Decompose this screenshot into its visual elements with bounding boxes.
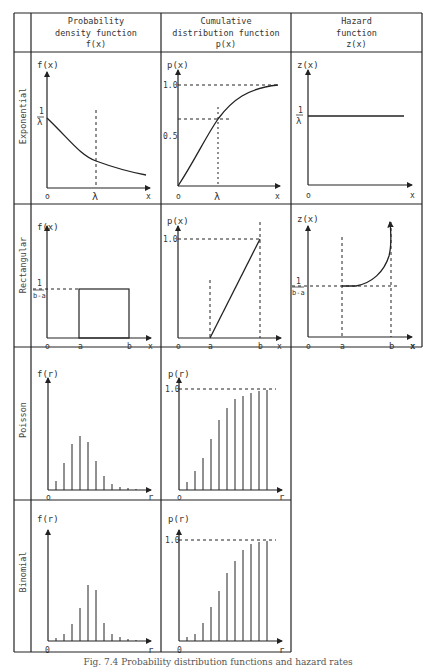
- plots-layer: f(x) 1 λ o λ x p(x) 1.0 0.5 o λ x: [0, 0, 436, 669]
- tick-one: 1.0: [163, 81, 178, 90]
- axis-label-pr: p(r): [168, 514, 190, 524]
- tick-lambda: λ: [92, 191, 98, 202]
- axis-label-x: x: [410, 191, 415, 200]
- origin-label: o: [306, 342, 311, 351]
- tick-one-over-lambda-den: λ: [37, 117, 43, 127]
- tick-lambda: λ: [214, 191, 220, 202]
- origin-label: o: [306, 191, 311, 200]
- axis-label-x: x: [275, 192, 280, 201]
- tick-one-over-ba-den: b-a: [292, 289, 305, 297]
- tick-a: a: [78, 342, 83, 351]
- tick-one-over-ba-num: 1: [37, 279, 42, 288]
- plot-poisson-pmf: f(r) o r: [37, 369, 154, 502]
- tick-one-over-lambda-num: 1: [298, 106, 303, 115]
- tick-b: b: [389, 341, 394, 351]
- tick-a: a: [208, 342, 213, 351]
- plot-exponential-pdf: f(x) 1 λ o λ x: [37, 60, 151, 202]
- axis-label-px: p(x): [167, 216, 189, 226]
- origin-label: o: [46, 493, 51, 502]
- figure-caption: Fig. 7.4 Probability distribution functi…: [0, 657, 436, 667]
- origin-label: o: [176, 342, 181, 351]
- tick-one: 1.0: [165, 536, 180, 545]
- origin-label: o: [45, 192, 50, 201]
- axis-label-r: r: [279, 492, 285, 502]
- tick-a: a: [340, 342, 345, 351]
- axis-label-r: r: [279, 645, 285, 655]
- figure-page: Probability density function f(x) Cumula…: [0, 0, 436, 669]
- origin-label: o: [45, 342, 50, 351]
- tick-b: b: [258, 342, 263, 351]
- axis-label-zx: z(x): [297, 60, 319, 70]
- plot-poisson-cdf: p(r) 1.0 o r: [165, 369, 285, 502]
- axis-label-fx: f(x): [37, 222, 59, 232]
- origin-label: o: [177, 493, 182, 502]
- plot-rectangular-cdf: p(x) 1.0 o a b x: [163, 216, 282, 351]
- axis-label-x: x: [146, 192, 151, 201]
- tick-b: b: [127, 342, 132, 351]
- axis-label-fx: f(x): [37, 60, 59, 70]
- tick-one: 1.0: [163, 235, 178, 244]
- plot-rectangular-hazard: z(x) 1 b-a o a b x: [292, 214, 416, 351]
- tick-one-over-lambda-den: λ: [296, 116, 302, 126]
- tick-half: 0.5: [163, 132, 178, 141]
- origin-label: 0: [45, 646, 50, 655]
- axis-label-x: x: [410, 341, 416, 351]
- plot-exponential-cdf: p(x) 1.0 0.5 o λ x: [163, 60, 280, 202]
- plot-exponential-hazard: z(x) 1 λ o x: [296, 60, 415, 200]
- axis-label-pr: p(r): [168, 369, 190, 379]
- axis-label-fr: f(r): [37, 514, 59, 524]
- axis-label-r: r: [148, 492, 154, 502]
- tick-one-over-ba-den: b-a: [33, 292, 46, 300]
- axis-label-zx: z(x): [297, 214, 319, 224]
- axis-label-fr: f(r): [37, 369, 59, 379]
- origin-label: o: [176, 192, 181, 201]
- plot-binomial-cdf: p(r) 1.0 0 r: [165, 514, 285, 655]
- tick-one-over-ba-num: 1: [296, 277, 301, 286]
- axis-label-r: r: [148, 645, 154, 655]
- plot-binomial-pmf: f(r) 0 r: [37, 514, 154, 655]
- axis-label-x: x: [148, 342, 153, 351]
- axis-label-x: x: [277, 342, 282, 351]
- origin-label: 0: [177, 646, 182, 655]
- tick-one-over-lambda-num: 1: [39, 107, 44, 116]
- axis-label-px: p(x): [167, 60, 189, 70]
- plot-rectangular-pdf: f(x) 1 b-a o a b x: [33, 222, 153, 351]
- tick-one: 1.0: [165, 385, 180, 394]
